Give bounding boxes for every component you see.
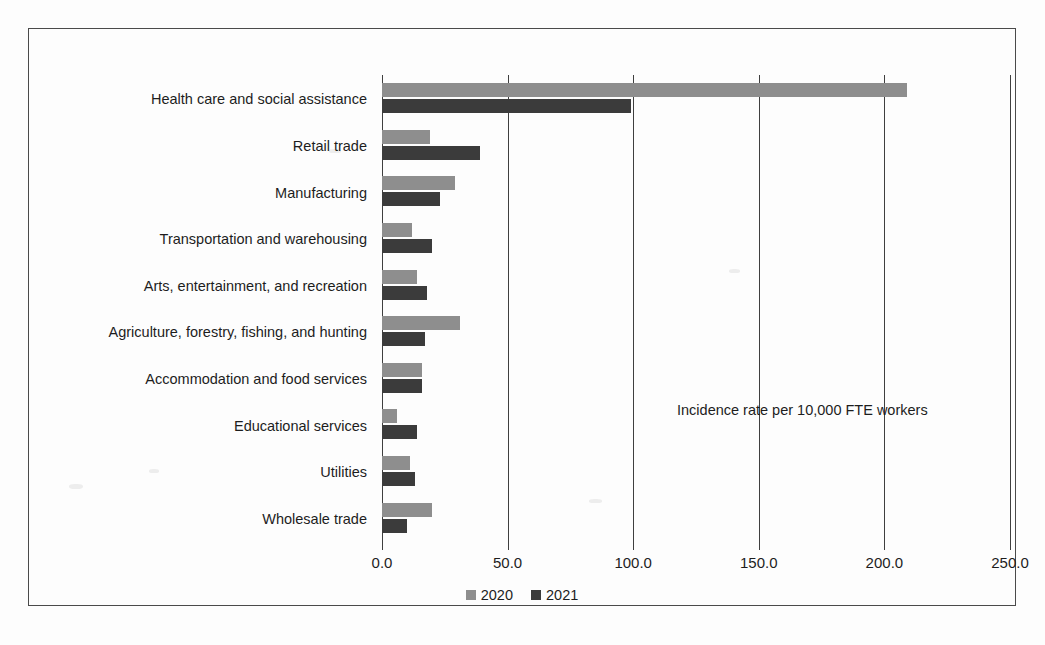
chart-legend: 2020 2021 (29, 587, 1015, 603)
x-tick-200.0 (884, 541, 885, 550)
y-axis-label-2: Manufacturing (275, 185, 367, 201)
x-tick-label-250.0: 250.0 (991, 554, 1029, 571)
bar-rows (382, 75, 1010, 541)
y-axis-label-8: Utilities (320, 464, 367, 480)
bar-2020[interactable] (382, 456, 410, 470)
bar-group (382, 355, 1010, 402)
chart-frame: Health care and social assistance Retail… (28, 28, 1016, 606)
y-axis-label-6: Accommodation and food services (145, 371, 367, 387)
bar-2020[interactable] (382, 503, 432, 517)
bar-2021[interactable] (382, 239, 432, 253)
y-axis-label-1: Retail trade (293, 138, 367, 154)
bar-group (382, 75, 1010, 122)
bar-gap (382, 190, 1010, 192)
x-tick-250.0 (1010, 541, 1011, 550)
gridline-250.0 (1010, 75, 1011, 541)
bar-gap (382, 423, 1010, 425)
y-axis-label-3: Transportation and warehousing (160, 231, 367, 247)
y-axis-label-9: Wholesale trade (262, 511, 367, 527)
bar-group (382, 308, 1010, 355)
x-tick-label-150.0: 150.0 (740, 554, 778, 571)
legend-swatch-icon-2021 (531, 590, 541, 600)
x-tick-label-200.0: 200.0 (866, 554, 904, 571)
chart-page: Health care and social assistance Retail… (0, 0, 1045, 645)
y-axis-category-labels: Health care and social assistance Retail… (57, 75, 375, 541)
bar-gap (382, 517, 1010, 519)
bar-group (382, 448, 1010, 495)
y-axis-label-5: Agriculture, forestry, fishing, and hunt… (109, 324, 367, 340)
x-tick-label-0.0: 0.0 (372, 554, 393, 571)
x-tick-label-100.0: 100.0 (614, 554, 652, 571)
bar-2021[interactable] (382, 425, 417, 439)
bar-2021[interactable] (382, 379, 422, 393)
bar-2021[interactable] (382, 146, 480, 160)
bar-group (382, 168, 1010, 215)
bar-2021[interactable] (382, 99, 631, 113)
x-axis-tick-labels: 0.050.0100.0150.0200.0250.0 (382, 554, 1010, 576)
bar-2021[interactable] (382, 192, 440, 206)
x-tick-100.0 (633, 541, 634, 550)
legend-swatch-icon-2020 (466, 590, 476, 600)
bar-gap (382, 284, 1010, 286)
bar-gap (382, 330, 1010, 332)
bar-2020[interactable] (382, 176, 455, 190)
y-axis-label-0: Health care and social assistance (151, 91, 367, 107)
bar-gap (382, 377, 1010, 379)
bar-2021[interactable] (382, 519, 407, 533)
bar-2021[interactable] (382, 332, 425, 346)
x-tick-0.0 (382, 541, 383, 550)
x-tick-label-50.0: 50.0 (493, 554, 522, 571)
bar-2020[interactable] (382, 409, 397, 423)
bar-2020[interactable] (382, 270, 417, 284)
legend-label-2020: 2020 (481, 587, 513, 603)
y-axis-label-7: Educational services (234, 418, 367, 434)
bar-group (382, 494, 1010, 541)
bar-group (382, 122, 1010, 169)
bar-2021[interactable] (382, 286, 427, 300)
bar-gap (382, 470, 1010, 472)
bar-2020[interactable] (382, 83, 907, 97)
chart-annotation: Incidence rate per 10,000 FTE workers (677, 402, 928, 418)
y-axis-label-4: Arts, entertainment, and recreation (144, 278, 367, 294)
legend-item-2020[interactable]: 2020 (466, 587, 513, 603)
x-axis-ticks (382, 541, 1010, 551)
plot-area (382, 75, 1010, 541)
bar-group (382, 261, 1010, 308)
x-tick-150.0 (759, 541, 760, 550)
bar-group (382, 215, 1010, 262)
x-tick-50.0 (508, 541, 509, 550)
bar-2020[interactable] (382, 130, 430, 144)
legend-label-2021: 2021 (546, 587, 578, 603)
bar-2021[interactable] (382, 472, 415, 486)
bar-2020[interactable] (382, 223, 412, 237)
bar-gap (382, 237, 1010, 239)
bar-2020[interactable] (382, 316, 460, 330)
bar-2020[interactable] (382, 363, 422, 377)
legend-item-2021[interactable]: 2021 (531, 587, 578, 603)
